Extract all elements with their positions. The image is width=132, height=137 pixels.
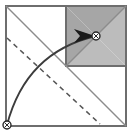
figure-container: Square fold construction diagram Geometr… (0, 0, 132, 137)
pivot-marker-target-icon (92, 32, 100, 40)
geometry-diagram: Square fold construction diagram Geometr… (0, 0, 132, 137)
pivot-marker-origin-icon (3, 121, 11, 129)
